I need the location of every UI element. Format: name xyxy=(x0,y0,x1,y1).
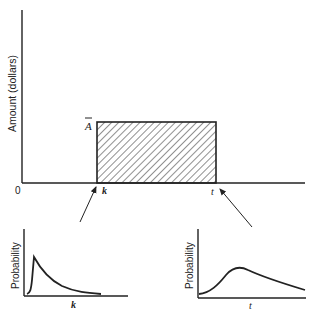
hatched-region xyxy=(97,122,216,183)
main-ylabel: Amount (dollars) xyxy=(6,55,18,132)
left-distribution-curve xyxy=(27,257,101,294)
left-xlabel: k xyxy=(71,299,76,310)
right-subplot: Probability t xyxy=(184,229,306,311)
left-subplot: Probability k xyxy=(10,229,128,310)
diagram-canvas: Amount (dollars) 0 A k t Probability k P… xyxy=(0,0,315,315)
left-ylabel: Probability xyxy=(10,242,21,289)
right-distribution-curve xyxy=(199,268,305,294)
level-label: A xyxy=(84,120,92,132)
right-ylabel: Probability xyxy=(184,242,195,289)
origin-label: 0 xyxy=(15,185,21,196)
main-plot: Amount (dollars) 0 A k t xyxy=(6,10,305,197)
arrow-to-k xyxy=(80,187,96,222)
start-label: k xyxy=(102,185,107,196)
arrow-to-t xyxy=(220,189,252,227)
end-label: t xyxy=(211,186,214,197)
right-xlabel: t xyxy=(249,300,252,311)
